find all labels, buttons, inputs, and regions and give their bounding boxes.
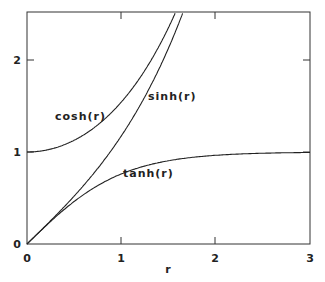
curves	[27, 13, 310, 244]
cosh-label: cosh(r)	[55, 110, 106, 123]
x-tick-2: 2	[211, 252, 219, 265]
y-tick-1: 1	[13, 146, 21, 159]
x-tick-3: 3	[306, 252, 314, 265]
y-tick-0: 0	[13, 238, 21, 251]
x-axis-label: r	[165, 263, 171, 276]
tanh-label: tanh(r)	[123, 167, 174, 180]
x-tick-0: 0	[23, 252, 31, 265]
sinh-label: sinh(r)	[148, 90, 196, 103]
x-tick-1: 1	[117, 252, 125, 265]
hyperbolic-functions-chart: 0 1 2 3 r 0 1 2 cosh(r) sinh(r) tanh(r)	[0, 0, 325, 282]
sinh-curve	[27, 13, 183, 244]
x-ticks	[121, 12, 215, 244]
y-ticks	[27, 60, 310, 152]
y-tick-2: 2	[13, 54, 21, 67]
